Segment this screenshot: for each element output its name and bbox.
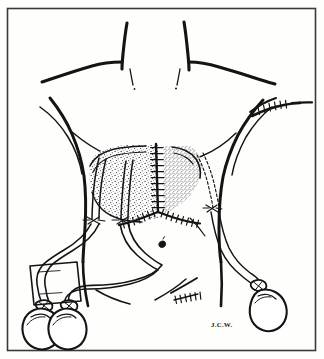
bulb-left-inner	[48, 309, 86, 350]
bulb-right	[250, 290, 287, 332]
figure-frame: J.C.W.	[0, 0, 324, 359]
artist-signature: J.C.W.	[211, 321, 232, 329]
surgical-illustration: J.C.W.	[0, 0, 324, 359]
